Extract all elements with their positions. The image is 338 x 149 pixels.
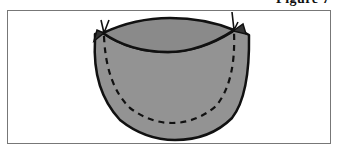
bowl-illustration bbox=[0, 0, 338, 149]
